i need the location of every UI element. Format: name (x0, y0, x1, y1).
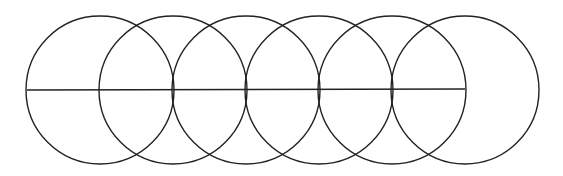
circle-5 (318, 16, 466, 164)
horizontal-diameter-line (27, 89, 465, 90)
circle-6 (391, 16, 539, 164)
overlapping-circles-diagram (0, 0, 563, 176)
